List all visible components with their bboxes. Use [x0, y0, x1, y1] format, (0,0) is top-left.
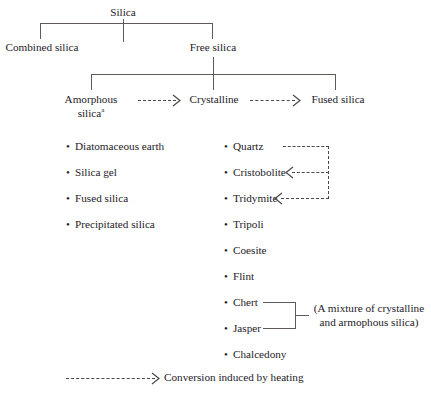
bullet-icon: •: [224, 218, 233, 231]
amorphous-item-label: Fused silica: [75, 192, 128, 204]
connector-level2-horizontal: [40, 23, 213, 24]
list-item: •Cristobolite: [224, 166, 286, 179]
list-item: •Chalcedony: [224, 348, 286, 361]
list-item: •Tripoli: [224, 218, 264, 231]
connector-combined-silica-drop: [40, 23, 41, 39]
amorphous-item-label: Silica gel: [75, 166, 117, 178]
mixture-annotation: (A mixture of crystalline and armophous …: [308, 301, 430, 329]
bullet-icon: •: [224, 166, 233, 179]
list-item: •Silica gel: [66, 166, 117, 179]
node-combined-silica: Combined silica: [2, 41, 82, 54]
list-item: •Chert: [224, 296, 258, 309]
node-crystalline: Crystalline: [183, 93, 245, 106]
conversion-branch-tridymite-line: [281, 198, 329, 199]
connector-amorphous-drop: [91, 74, 92, 90]
silica-classification-diagram: Silica Combined silica Free silica Amorp…: [0, 0, 431, 394]
bullet-icon: •: [66, 218, 75, 231]
arrow-right-icon: [292, 94, 304, 107]
list-item: •Flint: [224, 270, 254, 283]
mixture-annotation-line1: (A mixture of crystalline: [314, 302, 424, 314]
list-item: •Coesite: [224, 244, 267, 257]
list-item: •Diatomaceous earth: [66, 140, 164, 153]
node-amorphous-silica-line1: Amorphous: [65, 93, 118, 105]
crystalline-item-label: Cristobolite: [233, 166, 286, 178]
node-amorphous-silica-superscript: a: [101, 106, 104, 114]
crystalline-item-label: Flint: [233, 270, 254, 282]
mixture-brace-top-line: [263, 302, 295, 303]
arrow-right-icon: [172, 94, 184, 107]
connector-fused-silica-drop: [335, 74, 336, 90]
arrow-amorphous-to-crystalline-line: [138, 100, 176, 101]
arrow-left-icon: [285, 166, 297, 179]
bullet-icon: •: [224, 348, 233, 361]
crystalline-item-label: Jasper: [233, 322, 261, 334]
node-amorphous-silica: Amorphous silicaa: [46, 93, 136, 120]
node-silica: Silica: [98, 6, 148, 19]
amorphous-item-label: Precipitated silica: [75, 218, 155, 230]
bullet-icon: •: [66, 166, 75, 179]
bullet-icon: •: [224, 140, 233, 153]
legend-arrow-line: [66, 378, 155, 379]
arrow-right-icon: [151, 372, 163, 385]
conversion-bracket-top-line: [283, 146, 329, 147]
crystalline-item-label: Tripoli: [233, 218, 264, 230]
connector-free-silica-drop: [212, 23, 213, 39]
list-item: •Tridymite: [224, 192, 277, 205]
amorphous-item-label: Diatomaceous earth: [75, 140, 164, 152]
arrow-crystalline-to-fused-line: [250, 100, 295, 101]
bullet-icon: •: [224, 322, 233, 335]
arrow-left-icon: [274, 192, 286, 205]
list-item: •Fused silica: [66, 192, 128, 205]
conversion-branch-cristobolite-line: [292, 172, 329, 173]
bullet-icon: •: [224, 244, 233, 257]
crystalline-item-label: Chert: [233, 296, 258, 308]
mixture-brace-bottom-line: [263, 328, 295, 329]
node-amorphous-silica-line2: silica: [78, 107, 102, 119]
node-free-silica: Free silica: [180, 41, 246, 54]
crystalline-item-label: Coesite: [233, 244, 267, 256]
bullet-icon: •: [224, 270, 233, 283]
crystalline-item-label: Quartz: [233, 140, 263, 152]
bullet-icon: •: [224, 296, 233, 309]
node-fused-silica: Fused silica: [305, 93, 371, 106]
bullet-icon: •: [66, 192, 75, 205]
crystalline-item-label: Tridymite: [233, 192, 277, 204]
crystalline-item-label: Chalcedony: [233, 348, 286, 360]
mixture-brace-stem-line: [295, 315, 309, 316]
connector-level3-horizontal: [91, 74, 335, 75]
bullet-icon: •: [66, 140, 75, 153]
list-item: •Jasper: [224, 322, 261, 335]
list-item: •Precipitated silica: [66, 218, 155, 231]
list-item: •Quartz: [224, 140, 263, 153]
bullet-icon: •: [224, 192, 233, 205]
legend-label: Conversion induced by heating: [164, 371, 304, 384]
mixture-annotation-line2: and armophous silica): [320, 316, 419, 328]
